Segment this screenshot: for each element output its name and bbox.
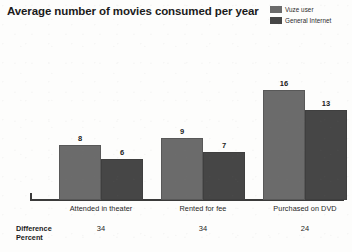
bar-rect <box>59 145 101 200</box>
bar-rect <box>161 138 203 200</box>
bar-value-label: 6 <box>101 148 143 157</box>
bar-rect <box>263 90 305 200</box>
bar-rect <box>203 152 245 200</box>
bar-value-label: 9 <box>161 127 203 136</box>
bar-chart-figure: Average number of movies consumed per ye… <box>0 0 352 252</box>
difference-label-line2: Percent <box>16 233 52 242</box>
bar-rect <box>101 159 143 200</box>
bar-rect <box>305 110 347 200</box>
difference-percent-label: Difference Percent <box>16 224 52 242</box>
plot-area: 8 6 9 7 16 13 <box>0 0 352 252</box>
difference-value-purchased-on-dvd: 24 <box>285 224 325 233</box>
bar-value-label: 13 <box>305 99 347 108</box>
difference-value-rented-for-fee: 34 <box>183 224 223 233</box>
bar-value-label: 8 <box>59 134 101 143</box>
y-axis-stub <box>30 193 32 200</box>
difference-label-line1: Difference <box>16 224 52 233</box>
bar-value-label: 16 <box>263 79 305 88</box>
category-label-purchased-on-dvd: Purchased on DVD <box>241 204 352 213</box>
bar-value-label: 7 <box>203 141 245 150</box>
difference-value-attended-in-theater: 34 <box>81 224 121 233</box>
